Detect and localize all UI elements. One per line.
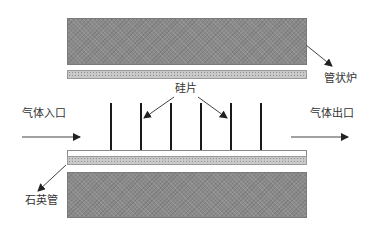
label-gas-outlet: 气体出口	[310, 108, 354, 119]
wafer-pointer-arrow-left	[144, 97, 174, 118]
furnace-pointer-arrow	[306, 45, 332, 66]
wafer-pointer-arrow-right	[198, 97, 227, 118]
quartz-tube-pointer-arrow	[38, 165, 66, 191]
label-tube-furnace: 管状炉	[324, 73, 357, 84]
label-silicon-wafers: 硅片	[175, 83, 197, 94]
label-quartz-tube: 石英管	[25, 195, 58, 206]
label-gas-inlet: 气体入口	[22, 108, 66, 119]
